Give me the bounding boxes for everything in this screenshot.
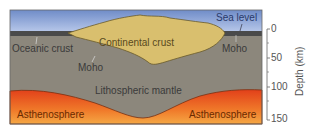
moho-right-label: Moho [222,44,247,54]
depth-tick-100: 100 [271,82,288,92]
sea-level-label: Sea level [216,13,257,23]
asthenosphere-right-label: Asthenosphere [189,110,256,120]
asthenosphere-left-label: Asthenosphere [17,110,84,120]
depth-tick-50: 50 [271,53,282,63]
lithospheric-mantle-label: Lithospheric mantle [95,86,182,96]
depth-axis-title: Depth (km) [294,47,305,96]
depth-tick-0: 0 [271,24,277,34]
depth-tick-150: 150 [271,114,288,124]
oceanic-crust-label: Oceanic crust [12,44,73,54]
continental-crust-label: Continental crust [99,38,174,48]
moho-left-label: Moho [78,63,103,73]
